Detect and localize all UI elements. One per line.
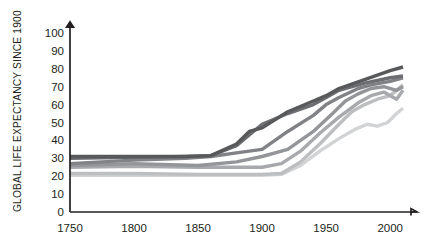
- axes: [70, 26, 417, 215]
- y-tick-label: 90: [51, 45, 64, 57]
- x-tick-label: 1950: [313, 222, 339, 234]
- x-axis-tick-labels: 175018001850190019502000: [57, 222, 403, 234]
- y-tick-label: 10: [51, 188, 64, 200]
- y-tick-label: 40: [51, 134, 64, 146]
- y-tick-label: 0: [58, 206, 64, 218]
- y-tick-label: 30: [51, 152, 64, 164]
- y-tick-label: 70: [51, 81, 64, 93]
- x-tick-label: 1850: [185, 222, 211, 234]
- y-tick-label: 100: [45, 27, 64, 39]
- y-tick-label: 20: [51, 170, 64, 182]
- x-tick-label: 1900: [249, 222, 275, 234]
- series-group: [70, 67, 403, 175]
- y-axis-tick-labels: 0102030405060708090100: [45, 27, 64, 218]
- series-line-series-3: [70, 78, 403, 164]
- x-tick-label: 1750: [57, 222, 83, 234]
- y-tick-label: 80: [51, 63, 64, 75]
- y-tick-label: 50: [51, 117, 64, 129]
- x-tick-label: 1800: [121, 222, 147, 234]
- chart-canvas: 0102030405060708090100 17501800185019001…: [0, 0, 437, 252]
- y-axis-title: GLOBAL LIFE EXPECTANCY SINCE 1900: [12, 10, 23, 212]
- series-line-series-2: [70, 76, 403, 158]
- y-tick-label: 60: [51, 99, 64, 111]
- x-axis-arrow: [411, 209, 417, 216]
- x-tick-label: 2000: [377, 222, 403, 234]
- life-expectancy-chart: 0102030405060708090100 17501800185019001…: [0, 0, 437, 252]
